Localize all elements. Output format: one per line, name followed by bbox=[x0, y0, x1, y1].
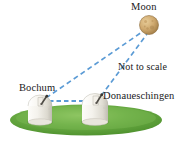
parallax-figure: Moon Not to scale Bochum Donaueschingen bbox=[0, 0, 188, 142]
label-bochum: Bochum bbox=[19, 83, 55, 94]
observatory-bochum bbox=[27, 95, 53, 126]
label-donaueschingen: Donaueschingen bbox=[103, 91, 174, 102]
label-not-to-scale: Not to scale bbox=[118, 62, 167, 72]
moon-body bbox=[140, 16, 159, 35]
label-moon: Moon bbox=[131, 2, 157, 13]
